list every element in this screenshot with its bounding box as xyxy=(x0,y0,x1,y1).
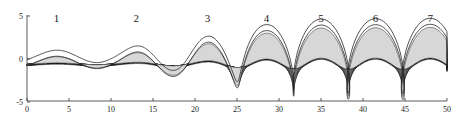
crest-label-2: 2 xyxy=(133,12,139,24)
y-tick-label: 5 xyxy=(19,12,23,21)
x-tick-label: 50 xyxy=(443,105,451,114)
x-tick-label: 35 xyxy=(317,105,325,114)
crest-labels: 1234567 xyxy=(54,12,434,24)
y-tick-label: -5 xyxy=(16,98,23,107)
x-tick-label: 30 xyxy=(275,105,283,114)
crest-label-6: 6 xyxy=(373,12,379,24)
y-tick-label: 0 xyxy=(19,55,23,64)
x-tick-label: 0 xyxy=(25,105,29,114)
x-tick-label: 40 xyxy=(359,105,367,114)
crest-label-1: 1 xyxy=(54,12,60,24)
x-ticks: 05101520253035404550 xyxy=(25,98,451,114)
crest-label-7: 7 xyxy=(427,12,433,24)
x-tick-label: 20 xyxy=(191,105,199,114)
wave-layers xyxy=(27,18,447,99)
x-tick-label: 5 xyxy=(67,105,71,114)
x-tick-label: 45 xyxy=(401,105,409,114)
wave-layers-chart: 05101520253035404550 -505 1234567 xyxy=(0,0,466,118)
crest-label-4: 4 xyxy=(264,12,270,24)
x-tick-label: 10 xyxy=(107,105,115,114)
x-tick-label: 15 xyxy=(149,105,157,114)
crest-label-3: 3 xyxy=(205,12,211,24)
x-tick-label: 25 xyxy=(233,105,241,114)
crest-label-5: 5 xyxy=(318,12,324,24)
